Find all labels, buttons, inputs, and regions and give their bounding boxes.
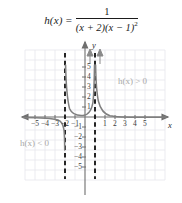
curve-branch-right <box>96 65 166 117</box>
y-tick-5: 5 <box>87 62 91 71</box>
function-name: h(x) <box>44 14 63 26</box>
fraction-numerator: 1 <box>104 7 109 19</box>
x-tick-4: 4 <box>133 119 137 128</box>
y-tick-3: 3 <box>87 82 91 91</box>
x-tick-1: 1 <box>103 119 107 128</box>
y-tick-2: 2 <box>87 92 91 101</box>
y-tick-minus-3: −3 <box>74 142 82 151</box>
y-tick-minus-4: −4 <box>74 152 82 161</box>
y-tick-minus-2: −2 <box>74 132 82 141</box>
negative-region-label: h(x) < 0 <box>20 138 49 148</box>
x-tick-minus-4: −4 <box>41 119 49 128</box>
equals-sign: = <box>66 14 72 26</box>
x-tick-minus-5: −5 <box>31 119 39 128</box>
rational-function-figure: h(x) = 1 (x + 2)(x − 1)2 <box>0 0 182 203</box>
denominator-factor-2: (x − 1) <box>105 22 134 33</box>
function-formula: h(x) = 1 (x + 2)(x − 1)2 <box>0 3 182 37</box>
y-axis-label: y <box>92 40 96 50</box>
denominator-factor-1: (x + 2) <box>76 22 105 33</box>
graph-plot-area: y x 5 4 3 2 1 −1 −2 −3 −4 −5 −5 −4 −3 −2… <box>0 38 182 203</box>
y-tick-1: 1 <box>87 102 91 111</box>
y-tick-minus-5: −5 <box>74 162 82 171</box>
positive-region-label: h(x) > 0 <box>118 76 147 86</box>
x-tick-minus-3: −3 <box>51 119 59 128</box>
x-tick-5: 5 <box>143 119 147 128</box>
x-tick-minus-2: −2 <box>61 119 69 128</box>
x-tick-3: 3 <box>123 119 127 128</box>
fraction-denominator: (x + 2)(x − 1)2 <box>76 19 138 33</box>
x-tick-2: 2 <box>113 119 117 128</box>
y-tick-4: 4 <box>87 72 91 81</box>
x-axis-label: x <box>168 120 172 130</box>
denominator-exponent: 2 <box>134 20 138 28</box>
x-tick-minus-1: −1 <box>71 119 79 128</box>
fraction: 1 (x + 2)(x − 1)2 <box>76 7 138 34</box>
